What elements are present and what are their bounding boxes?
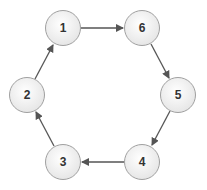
node-label: 3 <box>60 155 67 169</box>
node-label: 2 <box>24 88 31 102</box>
edge-5-to-4 <box>152 111 170 145</box>
edge-6-to-5 <box>151 44 169 78</box>
node-label: 1 <box>60 21 67 35</box>
node-6: 6 <box>125 11 160 46</box>
edge-2-to-1 <box>35 45 53 79</box>
node-2: 2 <box>10 78 45 113</box>
node-3: 3 <box>46 145 81 180</box>
node-1: 1 <box>46 11 81 46</box>
edges <box>35 28 170 162</box>
node-label: 6 <box>139 21 146 35</box>
node-label: 5 <box>175 88 182 102</box>
edge-3-to-2 <box>36 112 54 146</box>
node-label: 4 <box>139 155 146 169</box>
node-5: 5 <box>161 78 196 113</box>
cycle-diagram: 1 6 5 4 3 2 <box>0 0 207 190</box>
node-4: 4 <box>125 145 160 180</box>
